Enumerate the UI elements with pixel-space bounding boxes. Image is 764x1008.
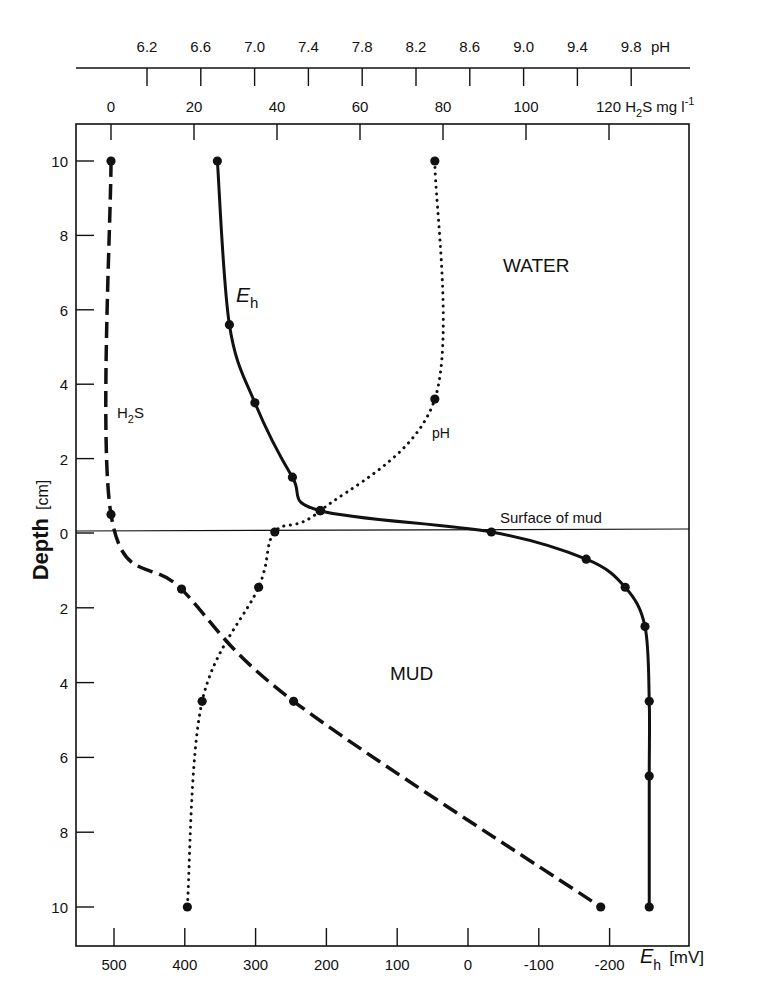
ph-data-point xyxy=(183,902,192,911)
eh-tick-label: 0 xyxy=(464,956,472,973)
ph-axis: 6.26.67.07.47.88.28.69.09.49.8 pH xyxy=(76,38,690,86)
h2s-data-point xyxy=(106,510,115,519)
ph-data-point xyxy=(430,394,439,403)
ph-tick-label: 6.6 xyxy=(190,38,211,55)
depth-axis-ticks: 1086420246810 xyxy=(51,153,94,916)
eh-data-point xyxy=(487,527,496,536)
eh-data-point xyxy=(250,398,259,407)
h2s-tick-label: 40 xyxy=(269,98,286,115)
eh-tick-label: 400 xyxy=(172,956,197,973)
depth-tick-label: 2 xyxy=(60,451,68,468)
eh-tick-label: -200 xyxy=(595,956,625,973)
depth-tick-label: 8 xyxy=(60,824,68,841)
ph-tick-label: 8.2 xyxy=(406,38,427,55)
ph-tick-label: 6.2 xyxy=(137,38,158,55)
h2s-tick-label: 80 xyxy=(435,98,452,115)
depth-tick-label: 0 xyxy=(60,525,68,542)
eh-tick-label: 200 xyxy=(314,956,339,973)
surface-of-mud-label: Surface of mud xyxy=(500,509,602,526)
ph-data-point xyxy=(270,527,279,536)
h2s-data-point xyxy=(177,585,186,594)
eh-data-point xyxy=(213,156,222,165)
h2s-axis-title: 120 H2S mg l-1 xyxy=(596,95,694,119)
h2s-tick-label: 0 xyxy=(107,98,115,115)
ph-data-point xyxy=(316,506,325,515)
ph-tick-label: 7.4 xyxy=(298,38,319,55)
eh-axis-title: Eh[mV] xyxy=(640,945,704,973)
ph-data-point xyxy=(254,583,263,592)
ph-tick-label: 9.4 xyxy=(567,38,588,55)
h2s-data-point xyxy=(106,156,115,165)
eh-curve xyxy=(217,161,649,907)
depth-tick-label: 8 xyxy=(60,227,68,244)
depth-tick-label: 10 xyxy=(51,899,68,916)
h2s-tick-label: 20 xyxy=(186,98,203,115)
mud-label: MUD xyxy=(390,663,433,684)
eh-tick-label: 300 xyxy=(243,956,268,973)
depth-axis-title: Depth[cm] xyxy=(28,480,53,581)
eh-data-point xyxy=(621,583,630,592)
eh-tick-label: 500 xyxy=(101,956,126,973)
eh-tick-label: -100 xyxy=(524,956,554,973)
h2s-data-point xyxy=(289,697,298,706)
ph-data-point xyxy=(198,697,207,706)
depth-tick-label: 4 xyxy=(60,376,68,393)
ph-tick-label: 7.0 xyxy=(244,38,265,55)
depth-tick-label: 2 xyxy=(60,600,68,617)
eh-data-point xyxy=(645,902,654,911)
depth-tick-label: 6 xyxy=(60,302,68,319)
eh-axis-ticks: 5004003002001000-100-200 xyxy=(101,928,624,973)
eh-data-point xyxy=(288,473,297,482)
h2s-tick-label: 60 xyxy=(352,98,369,115)
data-series xyxy=(106,156,654,911)
depth-tick-label: 4 xyxy=(60,675,68,692)
data-point-markers xyxy=(106,156,653,911)
ph-axis-title: pH xyxy=(651,38,670,55)
h2s-data-point xyxy=(596,902,605,911)
ph-tick-label: 9.0 xyxy=(513,38,534,55)
plot-frame xyxy=(76,124,689,946)
ph-tick-label: 9.8 xyxy=(621,38,642,55)
depth-tick-label: 6 xyxy=(60,749,68,766)
eh-curve-label: Eh xyxy=(236,283,258,311)
h2s-axis: 020406080100 120 H2S mg l-1 xyxy=(107,95,695,140)
eh-data-point xyxy=(645,772,654,781)
eh-data-point xyxy=(640,622,649,631)
ph-tick-label: 8.6 xyxy=(459,38,480,55)
eh-data-point xyxy=(582,555,591,564)
ph-data-point xyxy=(430,156,439,165)
ph-tick-label: 7.8 xyxy=(352,38,373,55)
ph-axis-ticks: 6.26.67.07.47.88.28.69.09.49.8 xyxy=(137,38,642,86)
surface-of-mud-line xyxy=(76,529,689,531)
ph-curve-label: pH xyxy=(432,425,450,441)
depth-tick-label: 10 xyxy=(51,153,68,170)
h2s-tick-label: 100 xyxy=(513,98,538,115)
eh-tick-label: 100 xyxy=(385,956,410,973)
eh-data-point xyxy=(645,697,654,706)
h2s-axis-ticks: 020406080100 xyxy=(107,98,609,140)
water-label: WATER xyxy=(503,255,570,276)
h2s-curve-label: H2S xyxy=(117,404,144,425)
eh-data-point xyxy=(225,320,234,329)
depth-profile-chart: 6.26.67.07.47.88.28.69.09.49.8 pH 020406… xyxy=(0,0,764,1008)
